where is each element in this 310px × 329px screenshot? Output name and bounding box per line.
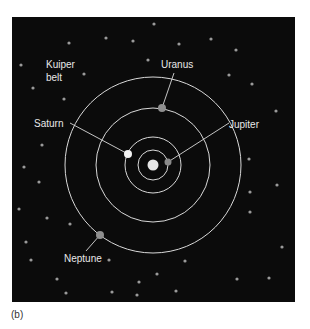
kuiper-object-dot	[267, 276, 270, 279]
kuiper-object-dot	[235, 277, 238, 280]
kuiper-object-dot	[274, 109, 277, 112]
kuiper-object-dot	[152, 22, 155, 25]
kuiper-object-dot	[174, 289, 177, 292]
kuiper-object-dot	[135, 293, 138, 296]
kuiper-object-dot	[107, 258, 110, 261]
kuiper-object-dot	[183, 259, 186, 262]
kuiper-object-dot	[29, 258, 32, 261]
kuiper-object-dot	[177, 42, 180, 45]
kuiper-belt-label: Kuiper	[46, 59, 76, 70]
kuiper-object-dot	[37, 180, 40, 183]
kuiper-object-dot	[247, 157, 250, 160]
uranus-label: Uranus	[161, 59, 193, 70]
planet-saturn	[124, 150, 132, 158]
kuiper-object-dot	[64, 291, 67, 294]
kuiper-object-dot	[110, 290, 113, 293]
kuiper-object-dot	[209, 37, 212, 40]
planet-jupiter	[165, 159, 172, 166]
kuiper-belt-label-line2: belt	[46, 72, 62, 83]
planet-uranus	[158, 104, 166, 112]
kuiper-object-dot	[67, 41, 70, 44]
kuiper-object-dot	[227, 73, 230, 76]
kuiper-object-dot	[248, 210, 251, 213]
figure-caption: (b)	[11, 309, 23, 320]
kuiper-object-dot	[31, 86, 34, 89]
kuiper-object-dot	[146, 58, 149, 61]
planet-neptune	[96, 231, 104, 239]
sun	[148, 160, 159, 171]
kuiper-object-dot	[45, 216, 48, 219]
kuiper-object-dot	[24, 240, 27, 243]
kuiper-object-dot	[131, 39, 134, 42]
solar-system-diagram: JupiterSaturnUranusNeptune Kuiper belt	[0, 0, 310, 329]
kuiper-object-dot	[155, 272, 158, 275]
neptune-label: Neptune	[64, 253, 102, 264]
kuiper-object-dot	[137, 280, 140, 283]
kuiper-object-dot	[234, 48, 237, 51]
kuiper-object-dot	[22, 165, 25, 168]
saturn-label: Saturn	[34, 118, 63, 129]
jupiter-label: Jupiter	[229, 119, 260, 130]
kuiper-object-dot	[250, 82, 253, 85]
kuiper-object-dot	[82, 72, 85, 75]
kuiper-object-dot	[40, 143, 43, 146]
kuiper-object-dot	[19, 63, 22, 66]
kuiper-object-dot	[68, 222, 71, 225]
kuiper-object-dot	[17, 207, 20, 210]
kuiper-object-dot	[275, 183, 278, 186]
kuiper-object-dot	[104, 36, 107, 39]
kuiper-object-dot	[62, 97, 65, 100]
kuiper-object-dot	[280, 245, 283, 248]
kuiper-object-dot	[55, 277, 58, 280]
kuiper-object-dot	[248, 190, 251, 193]
